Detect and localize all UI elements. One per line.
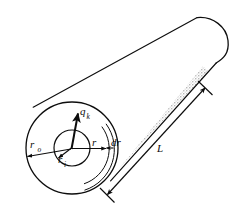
cylinder-heat-conduction-diagram: r o r i r dr q k L: [0, 0, 238, 215]
label-length: L: [156, 142, 163, 154]
label-outer-radius: r: [30, 138, 35, 150]
label-radius: r: [92, 136, 97, 148]
figure-canvas: r o r i r dr q k L: [0, 0, 238, 215]
label-outer-radius-subscript: o: [38, 145, 42, 154]
label-heat-flux: q: [80, 105, 86, 117]
length-extension-left: [100, 188, 115, 203]
label-inner-radius-subscript: i: [64, 160, 66, 169]
label-thickness: dr: [111, 136, 122, 148]
label-inner-radius: r: [58, 153, 63, 165]
